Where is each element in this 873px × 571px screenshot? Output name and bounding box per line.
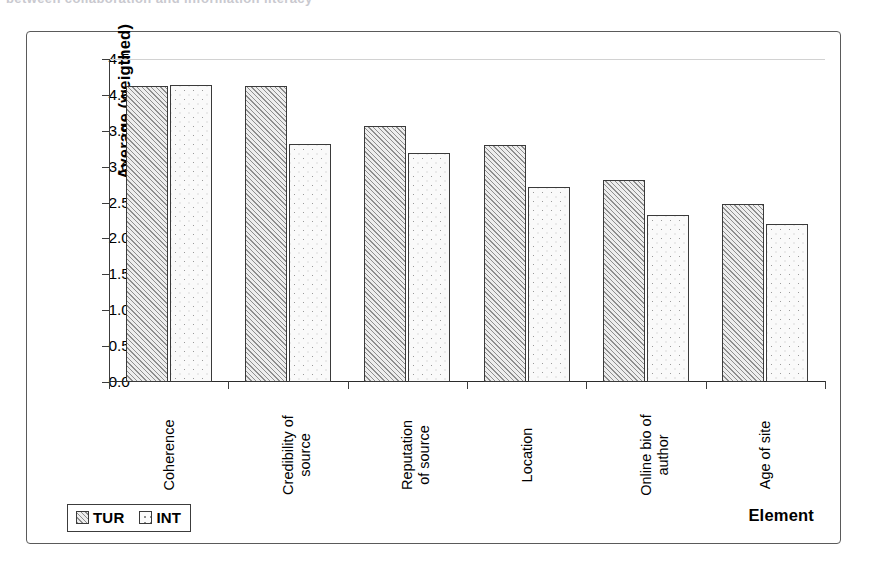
x-axis-tick-mark <box>109 381 110 389</box>
x-axis-category-label: Age of site <box>757 396 774 514</box>
legend: TURINT <box>67 504 191 532</box>
x-axis-tick-mark <box>348 381 349 389</box>
x-axis-category-label: Credibility of source <box>280 396 313 514</box>
y-axis-tick-mark <box>102 95 109 96</box>
legend-label: TUR <box>93 509 124 526</box>
x-axis-tick-mark <box>706 381 707 389</box>
bar-int <box>647 215 689 382</box>
bars-layer <box>109 59 825 382</box>
x-axis-category-label: Online bio of author <box>638 396 671 514</box>
bar-group <box>467 59 586 382</box>
bar-group <box>706 59 825 382</box>
y-axis-tick-mark <box>102 238 109 239</box>
bar-group <box>228 59 347 382</box>
y-axis-tick-mark <box>102 131 109 132</box>
bar-tur <box>722 204 764 382</box>
x-axis-category-label: Reputation of source <box>399 396 432 514</box>
y-axis-tick-mark <box>102 59 109 60</box>
bar-tur <box>603 180 645 382</box>
x-axis-title: Element <box>748 506 814 525</box>
bar-tur <box>484 145 526 382</box>
bar-int <box>408 153 450 382</box>
x-axis-category-label: Coherence <box>161 396 178 514</box>
y-axis-tick-mark <box>102 274 109 275</box>
bar-tur <box>245 86 287 382</box>
figure-frame: Average (weigthed) 4.54.03.53.02.52.01.5… <box>26 31 841 544</box>
legend-entry: TUR <box>76 509 124 526</box>
bar-int <box>528 187 570 382</box>
bar-group <box>586 59 705 382</box>
y-axis-tick-mark <box>102 203 109 204</box>
x-axis-category-label: Location <box>519 396 536 514</box>
hatch-swatch-icon <box>76 511 89 524</box>
legend-entry: INT <box>139 509 181 526</box>
y-axis-tick-mark <box>102 382 109 383</box>
bar-group <box>348 59 467 382</box>
cut-off-body-text: between collaboration and information li… <box>6 0 313 6</box>
bar-chart-plot: Average (weigthed) 4.54.03.53.02.52.01.5… <box>27 32 842 545</box>
bar-tur <box>126 86 168 382</box>
dot-swatch-icon <box>139 511 152 524</box>
bar-int <box>766 224 808 382</box>
y-axis-tick-mark <box>102 310 109 311</box>
x-axis-tick-mark <box>825 381 826 389</box>
bar-group <box>109 59 228 382</box>
x-axis-tick-mark <box>467 381 468 389</box>
bar-int <box>170 85 212 382</box>
y-axis-tick-mark <box>102 167 109 168</box>
legend-label: INT <box>156 509 181 526</box>
bar-int <box>289 144 331 382</box>
y-axis-tick-mark <box>102 346 109 347</box>
bar-tur <box>364 126 406 382</box>
x-axis-tick-mark <box>228 381 229 389</box>
x-axis-tick-mark <box>586 381 587 389</box>
